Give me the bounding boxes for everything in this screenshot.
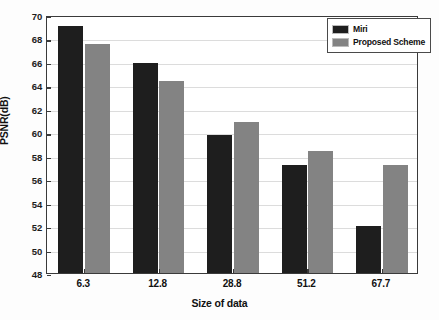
y-tick-mark bbox=[47, 252, 51, 253]
x-tick-label: 67.7 bbox=[371, 278, 390, 289]
y-tick-mark bbox=[47, 17, 51, 18]
y-tick-label: 52 bbox=[18, 222, 42, 233]
x-axis-title: Size of data bbox=[0, 297, 439, 309]
x-tick-label: 51.2 bbox=[297, 278, 316, 289]
legend-label: Miri bbox=[353, 24, 367, 34]
x-tick-mark bbox=[84, 269, 85, 273]
bar bbox=[356, 226, 381, 273]
y-tick-mark bbox=[47, 134, 51, 135]
y-tick-label: 60 bbox=[18, 128, 42, 139]
x-tick-mark bbox=[159, 269, 160, 273]
y-tick-mark bbox=[47, 205, 51, 206]
y-tick-label: 48 bbox=[18, 269, 42, 280]
x-tick-mark bbox=[307, 269, 308, 273]
y-tick-label: 66 bbox=[18, 57, 42, 68]
bar bbox=[234, 122, 259, 273]
y-tick-label: 50 bbox=[18, 245, 42, 256]
y-tick-label: 54 bbox=[18, 198, 42, 209]
bar bbox=[308, 151, 333, 273]
legend-swatch-icon bbox=[332, 25, 349, 34]
y-tick-mark bbox=[47, 87, 51, 88]
y-tick-mark bbox=[47, 64, 51, 65]
y-tick-mark bbox=[47, 158, 51, 159]
bar bbox=[58, 26, 83, 273]
y-tick-mark bbox=[47, 228, 51, 229]
legend-item: Proposed Scheme bbox=[332, 36, 425, 48]
y-tick-label: 70 bbox=[18, 11, 42, 22]
bar bbox=[133, 63, 158, 273]
y-tick-label: 68 bbox=[18, 34, 42, 45]
x-tick-label: 28.8 bbox=[223, 278, 242, 289]
y-tick-label: 62 bbox=[18, 104, 42, 115]
y-tick-label: 58 bbox=[18, 151, 42, 162]
bar bbox=[85, 44, 110, 273]
bar bbox=[383, 165, 408, 273]
psnr-bar-chart: PSNR(dB) 485052545658606264666870 6.312.… bbox=[0, 0, 439, 320]
plot-area bbox=[46, 16, 418, 274]
x-tick-mark bbox=[233, 269, 234, 273]
chart-legend: MiriProposed Scheme bbox=[327, 18, 431, 53]
legend-item: Miri bbox=[332, 23, 425, 35]
y-tick-mark bbox=[47, 111, 51, 112]
y-tick-mark bbox=[47, 40, 51, 41]
x-tick-label: 12.8 bbox=[148, 278, 167, 289]
y-tick-mark bbox=[47, 181, 51, 182]
y-tick-label: 64 bbox=[18, 81, 42, 92]
bar bbox=[159, 81, 184, 273]
y-tick-label: 56 bbox=[18, 175, 42, 186]
bar bbox=[282, 165, 307, 273]
bar bbox=[207, 135, 232, 273]
x-tick-mark bbox=[382, 269, 383, 273]
y-tick-mark bbox=[47, 275, 51, 276]
legend-swatch-icon bbox=[332, 38, 349, 47]
y-axis-title: PSNR(dB) bbox=[0, 96, 10, 145]
x-tick-label: 6.3 bbox=[77, 278, 90, 289]
legend-label: Proposed Scheme bbox=[353, 37, 425, 47]
